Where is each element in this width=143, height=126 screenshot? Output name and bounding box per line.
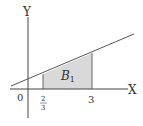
tick-a-denominator: 3 — [41, 104, 45, 112]
region-label-main: B — [60, 69, 70, 83]
x-axis-label: X — [128, 83, 137, 97]
origin-label: 0 — [17, 92, 23, 103]
y-axis-label: Y — [22, 5, 32, 19]
tick-a-numerator: 2 — [41, 95, 45, 103]
tick-b-label: 3 — [88, 94, 94, 105]
diagram-canvas: Y X 0 2 3 3 B1 — [0, 0, 143, 126]
region-label-sub: 1 — [70, 75, 75, 84]
